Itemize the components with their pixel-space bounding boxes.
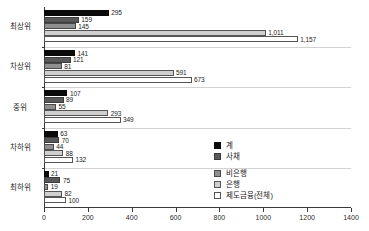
bar-value-label: 1,011: [268, 29, 283, 36]
bar-value-label: 88: [66, 150, 73, 157]
bar-value-label: 591: [176, 69, 187, 76]
bar-value-label: 349: [123, 116, 134, 123]
bar-value-label: 75: [63, 177, 70, 184]
bar-row: 107: [44, 90, 351, 96]
bar-row: 349: [44, 117, 351, 123]
bar-0-4[interactable]: [44, 171, 49, 177]
x-axis-tick: [176, 208, 177, 212]
bar-value-label: 121: [73, 56, 84, 63]
x-axis-label: 800: [214, 214, 226, 222]
bar-row: 1,157: [44, 36, 351, 42]
legend-item-0[interactable]: 계: [214, 140, 314, 151]
category-label-1: 차상위: [0, 62, 40, 71]
bar-row: 81: [44, 63, 351, 69]
x-axis-tick: [263, 208, 264, 212]
bar-2-4[interactable]: [44, 184, 48, 190]
y-axis-tick: [42, 87, 45, 88]
bar-value-label: 293: [111, 110, 122, 117]
bar-3-3[interactable]: [44, 150, 63, 156]
bar-3-2[interactable]: [44, 110, 108, 116]
bar-row: 141: [44, 50, 351, 56]
bar-row: 121: [44, 57, 351, 63]
legend-item-2[interactable]: 비은행: [214, 168, 314, 179]
group-separator: [45, 47, 351, 48]
x-axis: 0200400600800100012001400: [44, 208, 351, 228]
bar-4-2[interactable]: [44, 117, 121, 123]
legend-swatch-icon: [214, 142, 221, 149]
bar-row: 159: [44, 17, 351, 23]
bar-row: 63: [44, 131, 351, 137]
bar-value-label: 145: [78, 23, 89, 30]
bar-1-3[interactable]: [44, 137, 59, 143]
bar-4-3[interactable]: [44, 157, 73, 163]
bar-1-4[interactable]: [44, 177, 60, 183]
legend-swatch-icon: [214, 181, 221, 188]
bar-4-4[interactable]: [44, 197, 66, 203]
legend-label: 계: [226, 141, 233, 150]
x-axis-label: 0: [42, 214, 46, 222]
group-separator: [45, 128, 351, 129]
x-axis-label: 200: [82, 214, 94, 222]
x-axis-label: 1200: [299, 214, 315, 222]
bar-row: 295: [44, 10, 351, 16]
category-label-4: 최하위: [0, 183, 40, 192]
bar-row: 591: [44, 70, 351, 76]
x-axis-label: 400: [126, 214, 138, 222]
x-axis-tick: [44, 208, 45, 212]
legend-label: 비은행: [226, 169, 247, 178]
legend-item-4[interactable]: 제도금융(전체): [214, 190, 314, 201]
legend-label: 은행: [226, 180, 240, 189]
legend-item-3[interactable]: 은행: [214, 179, 314, 190]
bar-value-label: 19: [51, 183, 58, 190]
bar-1-2[interactable]: [44, 97, 64, 103]
bar-1-1[interactable]: [44, 57, 71, 63]
bar-row: 1,011: [44, 30, 351, 36]
group-separator: [45, 87, 351, 88]
bar-row: 145: [44, 23, 351, 29]
category-label-2: 중위: [0, 103, 40, 112]
legend-swatch-icon: [214, 153, 221, 160]
bar-2-0[interactable]: [44, 23, 76, 29]
y-axis-tick: [42, 128, 45, 129]
bar-0-0[interactable]: [44, 10, 109, 16]
bar-value-label: 55: [59, 103, 66, 110]
bar-0-2[interactable]: [44, 90, 67, 96]
x-axis-label: 600: [170, 214, 182, 222]
legend-label: 사채: [226, 152, 240, 161]
x-axis-tick: [88, 208, 89, 212]
bar-value-label: 673: [194, 76, 205, 83]
bar-value-label: 132: [75, 156, 86, 163]
x-axis-tick: [307, 208, 308, 212]
bar-row: 673: [44, 77, 351, 83]
bar-0-1[interactable]: [44, 50, 75, 56]
x-axis-tick: [132, 208, 133, 212]
chart-page: 2951591451,0111,157141121815916731078955…: [0, 0, 369, 231]
bar-3-4[interactable]: [44, 191, 62, 197]
bar-2-2[interactable]: [44, 104, 56, 110]
bar-value-label: 1,157: [300, 36, 316, 43]
x-axis-label: 1000: [255, 214, 271, 222]
chart-legend: 계사채비은행은행제도금융(전체): [214, 140, 314, 201]
bar-2-3[interactable]: [44, 144, 54, 150]
x-axis-tick: [219, 208, 220, 212]
bar-row: 293: [44, 110, 351, 116]
bar-4-1[interactable]: [44, 77, 192, 83]
bar-3-1[interactable]: [44, 70, 174, 76]
bar-row: 55: [44, 104, 351, 110]
bar-row: 89: [44, 97, 351, 103]
bar-value-label: 44: [56, 143, 63, 150]
x-axis-tick: [351, 208, 352, 212]
bar-4-0[interactable]: [44, 36, 298, 42]
y-axis-tick: [42, 47, 45, 48]
legend-item-1[interactable]: 사채: [214, 151, 314, 162]
y-axis-tick: [42, 168, 45, 169]
bar-2-1[interactable]: [44, 63, 62, 69]
bar-value-label: 21: [51, 170, 58, 177]
x-axis-label: 1400: [343, 214, 359, 222]
bar-value-label: 81: [64, 63, 71, 70]
legend-swatch-icon: [214, 192, 221, 199]
bar-value-label: 295: [111, 9, 122, 16]
bar-3-0[interactable]: [44, 30, 266, 36]
bar-1-0[interactable]: [44, 17, 79, 23]
bar-0-3[interactable]: [44, 131, 58, 137]
